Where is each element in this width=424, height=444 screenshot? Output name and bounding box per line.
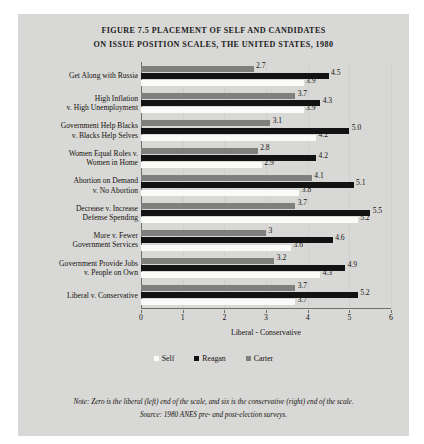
bar-row: 3.9 bbox=[141, 80, 391, 86]
bar-value-label: 3.7 bbox=[298, 90, 308, 98]
bar-row: 3.7 bbox=[141, 93, 391, 99]
x-axis-title: Liberal - Conservative bbox=[141, 328, 391, 337]
bar-value-label: 2.9 bbox=[264, 159, 274, 167]
bar-group: 3.75.55.2 bbox=[141, 199, 391, 226]
bar-group: 3.24.94.3 bbox=[141, 254, 391, 281]
bar-value-label: 5.2 bbox=[360, 214, 370, 222]
bar-row: 4.5 bbox=[141, 73, 391, 79]
bar-row: 5.1 bbox=[141, 182, 391, 188]
bar-row: 4.1 bbox=[141, 175, 391, 181]
bar-row: 4.3 bbox=[141, 100, 391, 106]
category-label: Government Provide Jobs v. People on Own bbox=[18, 259, 138, 277]
bar-row: 5.5 bbox=[141, 210, 391, 216]
legend-item-reagan: Reagan bbox=[194, 354, 225, 363]
bar-value-label: 3.7 bbox=[298, 199, 308, 207]
bar-value-label: 3 bbox=[269, 227, 273, 235]
bar-row: 3.8 bbox=[141, 190, 391, 196]
bar-group: 3.74.33.9 bbox=[141, 89, 391, 116]
figure-source: Source: 1980 ANES pre- and post-election… bbox=[18, 409, 409, 422]
bar-value-label: 3.9 bbox=[306, 104, 316, 112]
bar-reagan bbox=[141, 182, 354, 188]
bar-value-label: 4.2 bbox=[319, 131, 329, 139]
bar-row: 2.7 bbox=[141, 66, 391, 72]
bar-value-label: 3.7 bbox=[298, 282, 308, 290]
bar-group: 34.63.6 bbox=[141, 227, 391, 254]
bar-row: 4.2 bbox=[141, 135, 391, 141]
figure-panel: FIGURE 7.5 PLACEMENT OF SELF AND CANDIDA… bbox=[18, 14, 409, 436]
tick-label: 4 bbox=[306, 313, 310, 322]
bar-value-label: 4.6 bbox=[335, 234, 345, 242]
bar-carter bbox=[141, 285, 295, 291]
bar-self bbox=[141, 107, 304, 113]
bar-value-label: 5.1 bbox=[356, 179, 366, 187]
tick-label: 0 bbox=[139, 313, 143, 322]
figure-title-line-2: ON ISSUE POSITION SCALES, THE UNITED STA… bbox=[18, 38, 409, 52]
bar-value-label: 5.0 bbox=[352, 124, 362, 132]
bar-carter bbox=[141, 175, 312, 181]
bar-carter bbox=[141, 148, 258, 154]
bar-self bbox=[141, 80, 304, 86]
bar-self bbox=[141, 162, 262, 168]
bar-value-label: 5.5 bbox=[373, 207, 383, 215]
bar-value-label: 3.2 bbox=[277, 254, 287, 262]
legend-swatch-self bbox=[154, 356, 159, 361]
bar-row: 3 bbox=[141, 230, 391, 236]
bar-carter bbox=[141, 203, 295, 209]
bar-value-label: 4.1 bbox=[314, 172, 324, 180]
tick-label: 6 bbox=[389, 313, 393, 322]
x-axis-line bbox=[141, 308, 391, 309]
bar-group: 2.74.53.9 bbox=[141, 62, 391, 89]
bar-value-label: 4.3 bbox=[323, 97, 333, 105]
chart-legend: SelfReaganCarter bbox=[18, 354, 409, 363]
category-label: High Inflation v. High Unemployment bbox=[18, 94, 138, 112]
bar-value-label: 2.8 bbox=[260, 144, 270, 152]
bar-carter bbox=[141, 93, 295, 99]
bar-reagan bbox=[141, 292, 358, 298]
bar-row: 2.9 bbox=[141, 162, 391, 168]
bar-row: 3.7 bbox=[141, 299, 391, 305]
bar-carter bbox=[141, 120, 270, 126]
bar-reagan bbox=[141, 73, 329, 79]
category-label: More v. Fewer Government Services bbox=[18, 231, 138, 249]
chart-plot-area: 2.74.53.93.74.33.93.15.04.22.84.22.94.15… bbox=[141, 62, 391, 309]
category-axis-labels: Get Along with RussiaHigh Inflation v. H… bbox=[18, 62, 141, 309]
bar-value-label: 4.9 bbox=[348, 261, 358, 269]
bar-reagan bbox=[141, 155, 316, 161]
legend-item-carter: Carter bbox=[246, 354, 273, 363]
category-label: Get Along with Russia bbox=[18, 71, 138, 80]
bar-row: 2.8 bbox=[141, 148, 391, 154]
tick-label: 1 bbox=[181, 313, 185, 322]
figure-note: Note: Zero is the liberal (left) end of … bbox=[18, 396, 409, 409]
bar-row: 4.3 bbox=[141, 272, 391, 278]
gridline bbox=[391, 62, 392, 309]
figure-title: FIGURE 7.5 PLACEMENT OF SELF AND CANDIDA… bbox=[18, 24, 409, 51]
bar-carter bbox=[141, 230, 266, 236]
category-label: Abortion on Demand v. No Abortion bbox=[18, 176, 138, 194]
bar-value-label: 5.2 bbox=[360, 289, 370, 297]
x-axis-ticks: 0123456 bbox=[141, 310, 391, 322]
bar-row: 4.6 bbox=[141, 237, 391, 243]
bar-group: 4.15.13.8 bbox=[141, 172, 391, 199]
bar-row: 5.2 bbox=[141, 217, 391, 223]
tick-label: 5 bbox=[347, 313, 351, 322]
bar-reagan bbox=[141, 210, 370, 216]
bar-group: 2.84.22.9 bbox=[141, 144, 391, 171]
bar-row: 3.6 bbox=[141, 245, 391, 251]
bar-reagan bbox=[141, 265, 345, 271]
legend-swatch-carter bbox=[246, 356, 251, 361]
bar-self bbox=[141, 272, 320, 278]
bar-group: 3.75.23.7 bbox=[141, 282, 391, 309]
bar-self bbox=[141, 190, 299, 196]
bar-self bbox=[141, 245, 291, 251]
figure-title-line-1: FIGURE 7.5 PLACEMENT OF SELF AND CANDIDA… bbox=[18, 24, 409, 38]
bar-carter bbox=[141, 66, 254, 72]
bar-carter bbox=[141, 258, 274, 264]
bar-row: 3.7 bbox=[141, 285, 391, 291]
legend-label: Reagan bbox=[202, 354, 225, 363]
legend-item-self: Self bbox=[154, 354, 175, 363]
legend-label: Self bbox=[162, 354, 175, 363]
bar-value-label: 4.2 bbox=[319, 152, 329, 160]
category-label: Liberal v. Conservative bbox=[18, 291, 138, 300]
bar-value-label: 2.7 bbox=[256, 62, 266, 70]
chart-plot-wrapper: Get Along with RussiaHigh Inflation v. H… bbox=[18, 62, 409, 324]
